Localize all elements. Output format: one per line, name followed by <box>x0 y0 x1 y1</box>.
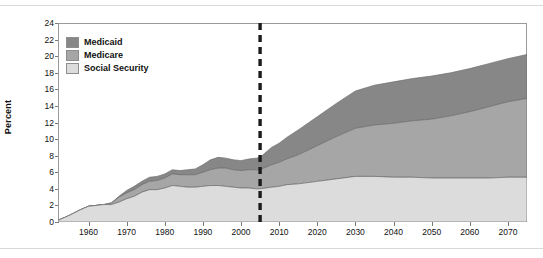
y-tick-label: 22 <box>32 36 54 44</box>
bottom-divider-rule <box>0 248 543 249</box>
y-tick-label: 8 <box>32 152 54 160</box>
x-tick-label: 1990 <box>183 228 223 237</box>
legend-item-label: Social Security <box>84 63 149 74</box>
y-tick-label: 6 <box>32 168 54 176</box>
chart-legend: MedicaidMedicareSocial Security <box>66 36 149 74</box>
x-tick-label: 2060 <box>450 228 490 237</box>
x-tick-label: 1980 <box>145 228 185 237</box>
legend-swatch-icon <box>66 37 79 48</box>
top-divider-rule <box>0 5 543 6</box>
x-tick-label: 2050 <box>412 228 452 237</box>
x-tick-label: 2070 <box>488 228 528 237</box>
y-tick-label: 0 <box>32 218 54 226</box>
x-tick-label: 1960 <box>69 228 109 237</box>
y-axis-tick-labels: 024681012141618202224 <box>30 0 54 258</box>
x-tick-label: 2030 <box>335 228 375 237</box>
y-axis-title: Percent <box>3 100 13 134</box>
x-tick-mark <box>317 222 318 226</box>
legend-swatch-icon <box>66 63 79 74</box>
y-tick-label: 2 <box>32 201 54 209</box>
x-tick-mark <box>394 222 395 226</box>
x-tick-mark <box>89 222 90 226</box>
y-tick-label: 12 <box>32 119 54 127</box>
x-tick-label: 1970 <box>107 228 147 237</box>
y-tick-label: 16 <box>32 85 54 93</box>
x-tick-mark <box>355 222 356 226</box>
legend-item: Social Security <box>66 62 149 74</box>
y-tick-label: 20 <box>32 52 54 60</box>
x-tick-mark <box>432 222 433 226</box>
y-tick-label: 10 <box>32 135 54 143</box>
y-tick-label: 18 <box>32 69 54 77</box>
legend-item: Medicare <box>66 49 149 61</box>
legend-item-label: Medicare <box>84 50 123 61</box>
x-tick-label: 2040 <box>374 228 414 237</box>
x-tick-mark <box>470 222 471 226</box>
x-tick-mark <box>279 222 280 226</box>
x-tick-mark <box>165 222 166 226</box>
y-tick-label: 14 <box>32 102 54 110</box>
x-tick-label: 2010 <box>259 228 299 237</box>
y-tick-mark <box>55 222 59 223</box>
chart-figure: Percent 024681012141618202224 1960197019… <box>0 0 543 258</box>
x-tick-label: 2000 <box>221 228 261 237</box>
legend-swatch-icon <box>66 50 79 61</box>
legend-item: Medicaid <box>66 36 149 48</box>
x-tick-mark <box>203 222 204 226</box>
legend-item-label: Medicaid <box>84 37 123 48</box>
x-tick-label: 2020 <box>297 228 337 237</box>
y-tick-label: 24 <box>32 19 54 27</box>
x-tick-mark <box>241 222 242 226</box>
x-tick-mark <box>127 222 128 226</box>
x-tick-mark <box>508 222 509 226</box>
y-tick-label: 4 <box>32 185 54 193</box>
